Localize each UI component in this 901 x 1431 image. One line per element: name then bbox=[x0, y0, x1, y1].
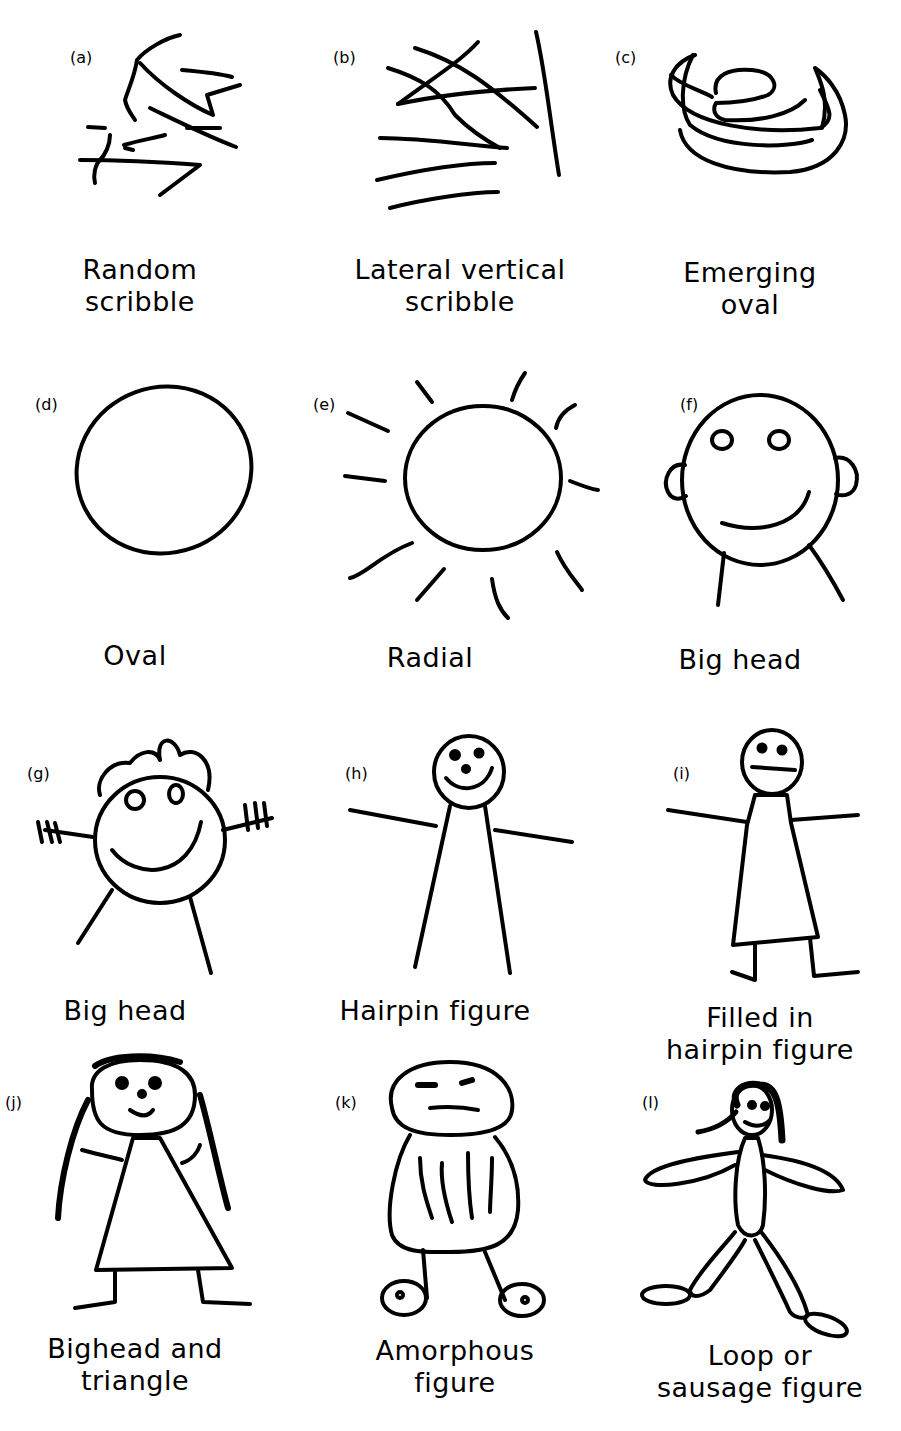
caption-line: Lateral vertical bbox=[315, 254, 605, 286]
loop-sausage-figure-drawing bbox=[642, 1084, 850, 1341]
caption-line: oval bbox=[640, 289, 860, 321]
caption-line: Radial bbox=[355, 642, 505, 674]
panel-tag-f: (f) bbox=[680, 395, 698, 414]
big-head-ears-drawing bbox=[666, 395, 857, 605]
caption-amorphous-figure: Amorphous figure bbox=[345, 1335, 565, 1399]
panel-tag-e: (e) bbox=[313, 395, 335, 414]
caption-line: Big head bbox=[640, 644, 840, 676]
caption-big-head-f: Big head bbox=[640, 644, 840, 676]
amorphous-figure-drawing bbox=[382, 1062, 544, 1316]
panel-tag-j: (j) bbox=[5, 1093, 22, 1112]
radial-sun-drawing bbox=[345, 373, 598, 618]
caption-line: hairpin figure bbox=[635, 1034, 885, 1066]
caption-oval: Oval bbox=[60, 640, 210, 672]
caption-line: Hairpin figure bbox=[305, 995, 565, 1027]
caption-line: figure bbox=[345, 1367, 565, 1399]
caption-loop-sausage-figure: Loop or sausage figure bbox=[630, 1340, 890, 1404]
emerging-oval-drawing bbox=[670, 55, 846, 172]
caption-line: Loop or bbox=[630, 1340, 890, 1372]
caption-line: Emerging bbox=[640, 257, 860, 289]
panel-tag-h: (h) bbox=[345, 764, 368, 783]
caption-line: Filled in bbox=[635, 1002, 885, 1034]
panel-tag-k: (k) bbox=[335, 1093, 357, 1112]
caption-line: Bighead and bbox=[15, 1333, 255, 1365]
caption-hairpin-figure: Hairpin figure bbox=[305, 995, 565, 1027]
caption-line: scribble bbox=[40, 286, 240, 318]
hairpin-figure-drawing bbox=[350, 736, 572, 973]
panel-tag-i: (i) bbox=[673, 764, 690, 783]
random-scribble-drawing bbox=[80, 35, 240, 195]
bighead-and-triangle-drawing bbox=[58, 1056, 250, 1308]
panel-tag-b: (b) bbox=[333, 48, 356, 67]
panel-tag-c: (c) bbox=[615, 48, 636, 67]
oval-drawing bbox=[53, 362, 275, 578]
filled-in-hairpin-figure-drawing bbox=[668, 730, 858, 980]
panel-tag-a: (a) bbox=[70, 48, 92, 67]
caption-line: scribble bbox=[315, 286, 605, 318]
caption-line: Oval bbox=[60, 640, 210, 672]
panel-tag-d: (d) bbox=[35, 395, 58, 414]
caption-filled-in-hairpin-figure: Filled in hairpin figure bbox=[635, 1002, 885, 1066]
caption-emerging-oval: Emerging oval bbox=[640, 257, 860, 321]
caption-big-head-g: Big head bbox=[25, 995, 225, 1027]
caption-lateral-vertical-scribble: Lateral vertical scribble bbox=[315, 254, 605, 318]
panel-tag-g: (g) bbox=[27, 764, 50, 783]
caption-line: Big head bbox=[25, 995, 225, 1027]
caption-line: Amorphous bbox=[345, 1335, 565, 1367]
drawings-canvas bbox=[0, 0, 901, 1431]
caption-line: triangle bbox=[15, 1365, 255, 1397]
panel-tag-l: (l) bbox=[642, 1093, 659, 1112]
caption-line: Random bbox=[40, 254, 240, 286]
big-head-hair-drawing bbox=[38, 741, 272, 973]
caption-random-scribble: Random scribble bbox=[40, 254, 240, 318]
caption-bighead-and-triangle: Bighead and triangle bbox=[15, 1333, 255, 1397]
lateral-vertical-scribble-drawing bbox=[377, 32, 559, 208]
caption-line: sausage figure bbox=[630, 1372, 890, 1404]
caption-radial: Radial bbox=[355, 642, 505, 674]
